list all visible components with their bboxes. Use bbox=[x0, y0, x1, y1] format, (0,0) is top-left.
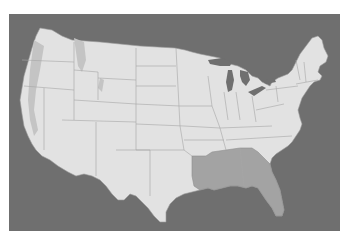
us-map bbox=[0, 0, 351, 242]
us-landmass bbox=[20, 28, 328, 222]
